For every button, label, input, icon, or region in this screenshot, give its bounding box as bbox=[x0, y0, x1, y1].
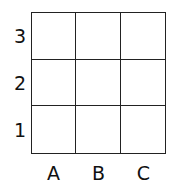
coordinate-grid bbox=[31, 12, 166, 154]
cell-c3 bbox=[121, 13, 165, 60]
cell-a3 bbox=[32, 13, 76, 60]
col-label-c: C bbox=[121, 163, 166, 183]
cell-b1 bbox=[76, 106, 120, 153]
col-label-a: A bbox=[31, 163, 76, 183]
cell-b3 bbox=[76, 13, 120, 60]
row-label-2: 2 bbox=[12, 73, 28, 93]
col-label-b: B bbox=[76, 163, 121, 183]
row-label-3: 3 bbox=[12, 26, 28, 46]
cell-a2 bbox=[32, 60, 76, 107]
cell-c1 bbox=[121, 106, 165, 153]
cell-c2 bbox=[121, 60, 165, 107]
cell-a1 bbox=[32, 106, 76, 153]
cell-b2 bbox=[76, 60, 120, 107]
row-label-1: 1 bbox=[12, 120, 28, 140]
